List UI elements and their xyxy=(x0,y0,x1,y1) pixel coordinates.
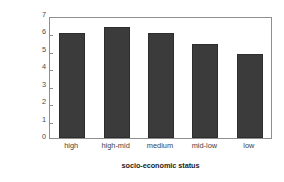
y-tick-label-7: 7 xyxy=(32,11,46,18)
bar-slot-high-mid xyxy=(94,18,138,138)
bar-high xyxy=(59,33,85,138)
plot-inner xyxy=(50,18,271,138)
y-tick-label-1: 1 xyxy=(32,116,46,123)
y-tick-label-5: 5 xyxy=(32,46,46,53)
bar-slot-low xyxy=(228,18,272,138)
x-tick-label-mid-low: mid-low xyxy=(182,142,226,149)
bar-high-mid xyxy=(104,27,130,138)
plot-area xyxy=(49,17,272,139)
x-tick-label-high-mid: high-mid xyxy=(93,142,137,149)
y-tick-label-4: 4 xyxy=(32,63,46,70)
x-axis-title: socio-economic status xyxy=(49,161,272,170)
bar-slot-mid-low xyxy=(183,18,227,138)
y-axis-tick-labels: 7 6 5 4 3 2 1 0 xyxy=(32,11,46,145)
x-tick-label-medium: medium xyxy=(138,142,182,149)
bar-medium xyxy=(148,33,174,138)
y-tick-label-0: 0 xyxy=(32,133,46,140)
y-tick-label-3: 3 xyxy=(32,81,46,88)
x-tick-label-high: high xyxy=(49,142,93,149)
bar-mid-low xyxy=(192,44,218,138)
y-tick-label-6: 6 xyxy=(32,28,46,35)
y-tick-label-2: 2 xyxy=(32,98,46,105)
bar-slot-medium xyxy=(139,18,183,138)
x-axis-tick-labels: high high-mid medium mid-low low xyxy=(49,142,272,154)
bar-low xyxy=(237,54,263,138)
x-tick-label-low: low xyxy=(227,142,271,149)
bar-slot-high xyxy=(50,18,94,138)
bar-chart: age-adjusted incidence (per 100,000) 7 6… xyxy=(0,0,284,182)
